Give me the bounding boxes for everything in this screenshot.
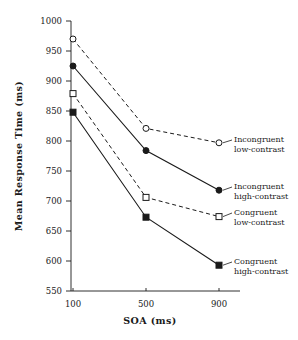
- y-tick-label-700: 700: [46, 196, 62, 206]
- y-tick-label-550: 550: [46, 286, 62, 296]
- legend-item-congruent-low-contrast-line2: low-contrast: [234, 218, 285, 227]
- legend-item-incongruent-low-contrast-line2: low-contrast: [234, 145, 285, 154]
- data-point-congruent-high-contrast-100: [70, 109, 76, 115]
- data-point-congruent-high-contrast-900: [216, 262, 222, 268]
- y-tick-label-950: 950: [46, 46, 62, 56]
- y-axis-title: Mean Response Time (ms): [13, 81, 24, 231]
- y-tick-label-900: 900: [46, 76, 62, 86]
- x-tick-label-500: 500: [138, 299, 154, 309]
- legend-item-congruent-high-contrast-line1: Congruent: [234, 257, 278, 266]
- y-tick-label-800: 800: [46, 136, 62, 146]
- legend-leader-congruent-high-contrast: [223, 262, 232, 265]
- y-tick-label-1000: 1000: [40, 16, 62, 26]
- legend-item-incongruent-high-contrast-line2: high-contrast: [234, 192, 289, 201]
- series-incongruent-low-contrast: [70, 36, 222, 146]
- data-point-congruent-high-contrast-500: [143, 214, 149, 220]
- legend-item-congruent-high-contrast-line2: high-contrast: [234, 267, 289, 276]
- data-point-incongruent-high-contrast-900: [216, 187, 222, 193]
- legend-item-congruent-low-contrast-line1: Congruent: [234, 208, 278, 217]
- series-line-congruent-high-contrast: [73, 112, 219, 265]
- data-point-incongruent-high-contrast-500: [143, 148, 149, 154]
- legend-leader-incongruent-high-contrast: [223, 187, 232, 190]
- legend-leader-incongruent-low-contrast: [223, 140, 232, 143]
- y-tick-label-850: 850: [46, 106, 62, 116]
- data-point-congruent-low-contrast-900: [216, 214, 222, 220]
- data-point-incongruent-high-contrast-100: [70, 63, 76, 69]
- legend-leader-congruent-low-contrast: [223, 213, 232, 217]
- x-tick-label-100: 100: [65, 299, 81, 309]
- legend-item-incongruent-high-contrast-line1: Incongruent: [234, 182, 285, 191]
- data-point-incongruent-low-contrast-100: [70, 36, 76, 42]
- data-point-incongruent-low-contrast-500: [143, 125, 149, 131]
- data-point-congruent-low-contrast-100: [70, 91, 76, 97]
- series-congruent-low-contrast: [70, 91, 222, 220]
- legend-item-incongruent-low-contrast-line1: Incongruent: [234, 135, 285, 144]
- data-point-incongruent-low-contrast-900: [216, 140, 222, 146]
- response-time-chart: 550 600 650 700 750 800 850 900 950 1000…: [0, 0, 298, 340]
- y-axis-ticks: [66, 21, 71, 291]
- y-tick-label-750: 750: [46, 166, 62, 176]
- x-axis-title: SOA (ms): [123, 315, 176, 326]
- y-tick-label-600: 600: [46, 256, 62, 266]
- chart-canvas: 550 600 650 700 750 800 850 900 950 1000…: [0, 0, 298, 340]
- y-tick-label-650: 650: [46, 226, 62, 236]
- series-congruent-high-contrast: [70, 109, 222, 268]
- legend: Incongruent low-contrast Incongruent hig…: [234, 135, 289, 276]
- x-tick-label-900: 900: [211, 299, 227, 309]
- data-point-congruent-low-contrast-500: [143, 194, 149, 200]
